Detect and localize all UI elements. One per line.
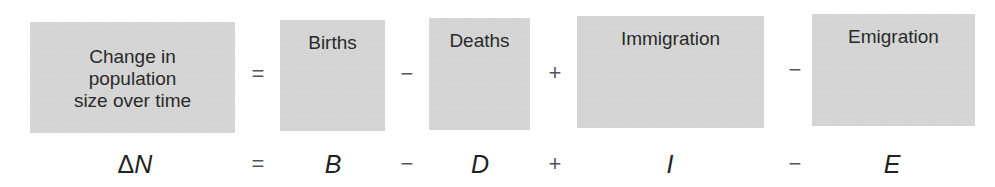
term-box-immigration: Immigration — [577, 16, 764, 128]
equals-operator-symbolic: = — [243, 151, 273, 177]
symbol-delta-n: ΔN — [100, 150, 170, 179]
plus-operator: + — [540, 60, 570, 86]
term-box-deaths: Deaths — [429, 18, 530, 130]
plus-operator-symbolic: + — [540, 151, 570, 177]
label-line-2: population — [30, 68, 235, 90]
term-label-change-in-population: Change in population size over time — [30, 46, 235, 112]
symbol-n: N — [134, 150, 152, 178]
symbol-b: B — [313, 150, 353, 179]
term-box-births: Births — [280, 20, 385, 131]
minus-operator: − — [392, 61, 422, 87]
symbol-d: D — [460, 150, 500, 179]
symbol-i: I — [650, 150, 690, 179]
label-line-1: Change in — [30, 46, 235, 68]
minus-operator-symbolic: − — [392, 151, 422, 177]
term-label-emigration: Emigration — [812, 26, 975, 48]
term-box-change-in-population: Change in population size over time — [30, 22, 235, 133]
minus-operator-symbolic: − — [780, 151, 810, 177]
term-label-deaths: Deaths — [429, 30, 530, 52]
minus-operator: − — [780, 57, 810, 83]
term-label-births: Births — [280, 32, 385, 54]
term-label-immigration: Immigration — [577, 28, 764, 50]
label-line-3: size over time — [30, 90, 235, 112]
delta-symbol: Δ — [118, 150, 135, 178]
symbol-e: E — [872, 150, 912, 179]
equals-operator: = — [243, 61, 273, 87]
term-box-emigration: Emigration — [812, 14, 975, 126]
